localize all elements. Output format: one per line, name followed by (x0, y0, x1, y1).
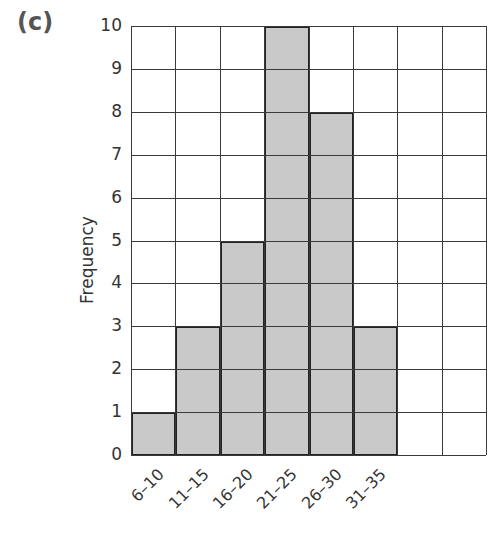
y-axis-label: Frequency (77, 210, 97, 310)
grid-line-horizontal (131, 412, 486, 413)
grid-line-horizontal (131, 283, 486, 284)
grid-line-horizontal (131, 26, 486, 27)
x-tick-label: 16–20 (201, 465, 257, 521)
grid-line-vertical (486, 26, 487, 455)
part-label: (c) (17, 8, 53, 36)
grid-line-horizontal (131, 69, 486, 70)
y-tick-label: 9 (92, 58, 122, 78)
y-tick-label: 0 (92, 444, 122, 464)
y-tick-label: 3 (92, 315, 122, 335)
x-tick-label: 11–15 (156, 465, 212, 521)
histogram-plot (131, 26, 486, 455)
y-tick-label: 10 (92, 15, 122, 35)
x-tick-label: 6–10 (112, 465, 168, 521)
y-tick-label: 5 (92, 230, 122, 250)
grid-line-horizontal (131, 155, 486, 156)
grid-line-horizontal (131, 369, 486, 370)
y-tick-label: 2 (92, 358, 122, 378)
grid-line-horizontal (131, 112, 486, 113)
grid-line-horizontal (131, 455, 486, 456)
y-tick-label: 6 (92, 187, 122, 207)
y-tick-label: 7 (92, 144, 122, 164)
x-tick-label: 26–30 (290, 465, 346, 521)
y-tick-label: 1 (92, 401, 122, 421)
histogram-bar (220, 241, 265, 457)
grid-line-horizontal (131, 326, 486, 327)
x-tick-label: 31–35 (334, 465, 390, 521)
y-tick-label: 4 (92, 272, 122, 292)
x-tick-label: 21–25 (245, 465, 301, 521)
grid-line-horizontal (131, 241, 486, 242)
y-tick-label: 8 (92, 101, 122, 121)
histogram-bar (175, 326, 220, 456)
grid-line-horizontal (131, 198, 486, 199)
histogram-bar (353, 326, 398, 456)
histogram-bar (131, 412, 176, 456)
